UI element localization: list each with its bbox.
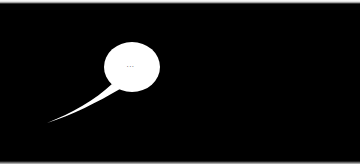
typing-ellipsis: ... [126,62,134,69]
speech-bubble: ... [104,42,160,92]
bottom-border [0,161,360,164]
dark-canvas: ... [0,0,360,164]
top-border [0,0,360,4]
speech-bubble-tail [0,0,360,164]
